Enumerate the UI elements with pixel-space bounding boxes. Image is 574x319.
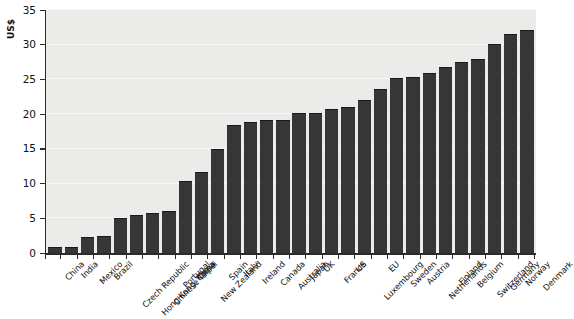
bar-slot (258, 10, 274, 253)
y-axis-tick-label: 25 (12, 74, 36, 85)
y-axis-tick-label: 30 (12, 39, 36, 50)
bar (97, 236, 110, 253)
x-axis-tick (421, 255, 437, 259)
x-axis-tick (110, 255, 126, 259)
y-axis-tick (40, 10, 45, 11)
x-axis-ticks (45, 255, 535, 259)
bar-slot (405, 10, 421, 253)
x-axis-tick (45, 255, 61, 259)
bar (244, 122, 257, 253)
x-axis-tick (470, 255, 486, 259)
bar-slot (80, 10, 96, 253)
y-axis-tick-label: 10 (12, 178, 36, 189)
bar-slot (519, 10, 535, 253)
bar-slot (145, 10, 161, 253)
x-axis-tick (274, 255, 290, 259)
bar-slot (470, 10, 486, 253)
x-axis-tick (372, 255, 388, 259)
plot-area (45, 10, 536, 253)
bar-slot (210, 10, 226, 253)
bar-slot (161, 10, 177, 253)
bar (81, 237, 94, 253)
bar (358, 100, 371, 253)
bar (195, 172, 208, 253)
x-axis-tick (453, 255, 469, 259)
bar (471, 59, 484, 253)
x-axis-tick (486, 255, 502, 259)
bar-slot (193, 10, 209, 253)
x-axis-tick (339, 255, 355, 259)
bar (276, 120, 289, 253)
bar (211, 149, 224, 253)
x-axis-tick (208, 255, 224, 259)
bar (374, 89, 387, 253)
bar-slot (502, 10, 518, 253)
bar-slot (421, 10, 437, 253)
x-axis-tick (502, 255, 518, 259)
bar-slot (340, 10, 356, 253)
bar-slot (112, 10, 128, 253)
bar (423, 73, 436, 254)
x-axis-label: EU (386, 259, 401, 274)
y-axis-tick (40, 218, 45, 219)
y-axis-tick-label: 15 (12, 143, 36, 154)
bar (325, 109, 338, 253)
bar (260, 120, 273, 253)
x-axis-labels: ChinaIndiaMexicoBrazilCzech RepublicHong… (45, 259, 535, 319)
y-axis-tick-label: 35 (12, 5, 36, 16)
x-axis-tick (78, 255, 94, 259)
bar-slot (242, 10, 258, 253)
y-axis-tick (40, 114, 45, 115)
bar-slot (291, 10, 307, 253)
y-axis-tick-label: 20 (12, 109, 36, 120)
bar (455, 62, 468, 253)
x-axis-tick (225, 255, 241, 259)
x-axis-tick (192, 255, 208, 259)
bar-slot (389, 10, 405, 253)
bar-series (46, 10, 536, 253)
y-axis-tick-label: 0 (12, 248, 36, 259)
bar (439, 67, 452, 253)
x-axis-tick (388, 255, 404, 259)
bar-slot (486, 10, 502, 253)
y-axis-tick (40, 183, 45, 184)
bar-slot (96, 10, 112, 253)
x-axis-tick (127, 255, 143, 259)
bar-slot (437, 10, 453, 253)
bar (227, 125, 240, 253)
y-axis-tick (40, 148, 45, 149)
x-axis-tick (519, 255, 535, 259)
bar-slot (226, 10, 242, 253)
bar (179, 181, 192, 253)
bar-slot (324, 10, 340, 253)
bar (292, 113, 305, 253)
x-axis-tick (323, 255, 339, 259)
bar-slot (307, 10, 323, 253)
x-axis-tick (94, 255, 110, 259)
bar (146, 213, 159, 253)
bar-slot (128, 10, 144, 253)
bar-slot (63, 10, 79, 253)
bar-slot (454, 10, 470, 253)
bar (504, 34, 517, 253)
bar-slot (372, 10, 388, 253)
x-axis-tick (61, 255, 77, 259)
x-axis-tick (241, 255, 257, 259)
x-axis-tick (355, 255, 371, 259)
bar (309, 113, 322, 253)
x-axis-tick (257, 255, 273, 259)
bar (406, 77, 419, 253)
y-axis-tick-label: 5 (12, 213, 36, 224)
y-axis-tick (40, 44, 45, 45)
y-axis-tick (40, 79, 45, 80)
y-axis-tick (40, 253, 45, 254)
bar (520, 30, 533, 253)
bar (130, 215, 143, 253)
bar-slot (275, 10, 291, 253)
x-axis-tick (404, 255, 420, 259)
bar-slot (177, 10, 193, 253)
bar (390, 78, 403, 253)
bar (341, 107, 354, 253)
x-axis-tick (143, 255, 159, 259)
